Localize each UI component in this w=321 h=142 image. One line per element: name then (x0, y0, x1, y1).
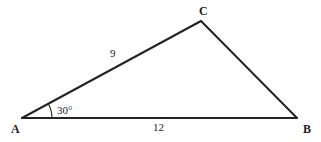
angle-measure-label-a: 30° (57, 105, 72, 116)
vertex-label-c: C (199, 5, 208, 17)
side-length-label-ab: 12 (153, 122, 164, 133)
side-cb-line (201, 21, 297, 118)
side-length-label-ac: 9 (110, 48, 116, 59)
angle-arc-a (48, 104, 52, 119)
vertex-label-b: B (303, 123, 311, 135)
geometry-figure: A B C 9 12 30° (0, 0, 321, 142)
side-ac-line (22, 21, 201, 118)
vertex-label-a: A (11, 123, 20, 135)
